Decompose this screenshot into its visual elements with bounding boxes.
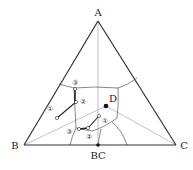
- path-point-mid: [74, 100, 77, 103]
- marker-upper-2: ②: [80, 98, 86, 106]
- vertex-label-c: C: [180, 140, 188, 151]
- marker-upper-3: ③: [72, 79, 78, 87]
- path-point-start: [97, 114, 100, 117]
- marker-lower-1: ①: [102, 117, 108, 125]
- boundary-lower-mid: [98, 129, 101, 145]
- triangle-outline: [24, 21, 176, 145]
- vertex-label-b: B: [11, 140, 18, 151]
- compound-label-d: D: [109, 93, 117, 104]
- marker-lower-3: ③: [66, 128, 72, 136]
- join-lines: [24, 21, 176, 145]
- compound-label-bc: BC: [90, 150, 106, 161]
- compound-d-point: [104, 104, 109, 109]
- crystallization-path-upper: [55, 87, 77, 119]
- ternary-phase-diagram: ① ② ③ ① ② ③ A B C BC D: [0, 0, 193, 170]
- boundary-lower-right: [112, 122, 127, 145]
- join-d-c: [106, 106, 176, 145]
- path-point-end: [77, 127, 80, 130]
- compound-bc-point: [96, 143, 100, 147]
- marker-lower-2: ②: [86, 133, 92, 141]
- vertex-label-a: A: [93, 7, 102, 18]
- path-point-end: [73, 87, 76, 90]
- boundary-top: [74, 87, 118, 88]
- crystallization-path-lower: [77, 114, 100, 130]
- path-point-mid: [86, 126, 89, 129]
- boundary-right-vertical: [117, 88, 118, 118]
- path-point-start: [55, 116, 58, 119]
- marker-upper-1: ①: [47, 105, 53, 113]
